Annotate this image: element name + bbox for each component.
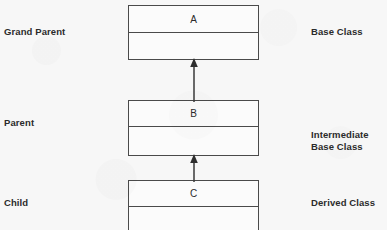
generalization-arrow-c-to-b [187, 154, 201, 182]
label-child: Child [4, 197, 28, 209]
generalization-arrowhead-b-to-a [190, 58, 198, 67]
class-name-c: C [129, 181, 258, 207]
class-members-b [129, 127, 258, 155]
label-parent: Parent [4, 117, 34, 129]
class-name-b: B [129, 101, 258, 127]
class-box-c[interactable]: C [128, 180, 259, 230]
label-base-class: Base Class [311, 26, 363, 38]
label-grand-parent: Grand Parent [4, 26, 65, 38]
class-box-a[interactable]: A [128, 5, 259, 60]
generalization-arrow-b-to-a [187, 58, 201, 102]
class-members-a [129, 33, 258, 59]
label-intermediate-base-class: Intermediate Base Class [311, 129, 369, 153]
label-derived-class: Derived Class [311, 197, 375, 209]
generalization-arrowhead-c-to-b [190, 154, 198, 163]
class-diagram-canvas: Grand Parent Parent Child Base Class Int… [0, 0, 387, 230]
class-members-c [129, 207, 258, 230]
class-box-b[interactable]: B [128, 100, 259, 156]
class-name-a: A [129, 6, 258, 33]
